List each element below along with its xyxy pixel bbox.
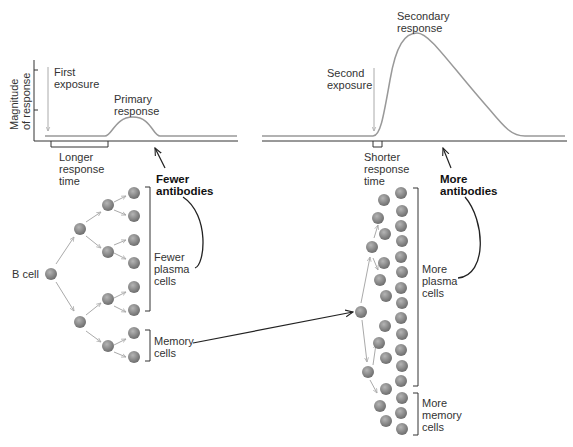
more-plasma-cells-label: More plasma cells xyxy=(422,263,457,299)
memory-cells-label: Memory cells xyxy=(154,335,194,359)
more-antibodies-label: More antibodies xyxy=(440,173,498,197)
left-proliferation-arrows xyxy=(56,196,126,357)
memory-to-secondary-arrow xyxy=(193,312,353,343)
more-antibodies-arrow xyxy=(443,148,451,168)
longer-response-bracket xyxy=(51,141,108,147)
second-exposure-label: Second exposure xyxy=(327,67,372,91)
fewer-antibodies-label: Fewer antibodies xyxy=(156,173,214,197)
b-cell-label: B cell xyxy=(12,268,39,280)
longer-response-time-label: Longer response time xyxy=(59,151,104,187)
shorter-response-bracket xyxy=(373,141,382,147)
fewer-plasma-cells-label: Fewer plasma cells xyxy=(154,251,189,287)
fewer-antibodies-arrow xyxy=(155,148,165,168)
y-axis-label: Magnitude of response xyxy=(8,73,32,130)
first-exposure-label: First exposure xyxy=(54,66,99,90)
primary-response-curve xyxy=(45,117,237,136)
primary-response-label: Primary response xyxy=(114,93,159,117)
right-graph xyxy=(262,33,567,168)
more-plasma-bracket xyxy=(413,188,418,386)
more-memory-bracket xyxy=(413,393,418,435)
right-cells xyxy=(355,187,408,435)
shorter-response-time-label: Shorter response time xyxy=(364,151,409,187)
left-cells xyxy=(45,187,140,363)
more-antibodies-link xyxy=(458,197,480,278)
memory-bracket xyxy=(145,330,150,361)
secondary-response-curve xyxy=(262,33,565,136)
b-cell xyxy=(45,268,57,280)
more-memory-cells-label: More memory cells xyxy=(422,397,462,433)
fewer-plasma-bracket xyxy=(145,187,150,311)
secondary-response-label: Secondary response xyxy=(397,10,450,34)
